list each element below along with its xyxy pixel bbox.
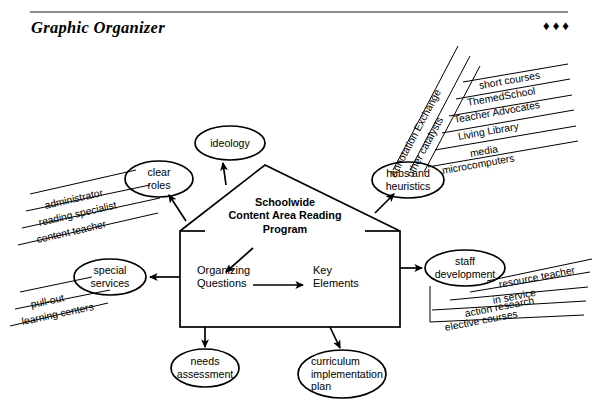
node-label-special-services: special services — [74, 264, 146, 289]
node-label-curriculum-plan: curriculum implementation plan — [311, 355, 395, 393]
node-label-ideology: ideology — [195, 137, 265, 150]
inner-label-key-elements: Key Elements — [313, 264, 359, 290]
house-title-program: Program — [205, 223, 365, 236]
node-label-staff-development: staff development — [423, 255, 507, 280]
house-title: Schoolwide Content Area Reading — [205, 196, 365, 222]
inner-label-organizing-questions: Organizing Questions — [197, 264, 250, 290]
node-label-needs-assessment: needs assessment — [171, 355, 239, 380]
node-label-clear-roles: clear roles — [124, 166, 194, 191]
house-shape — [180, 165, 400, 327]
diagram-page: Graphic Organizer ♦♦♦ — [0, 0, 596, 407]
